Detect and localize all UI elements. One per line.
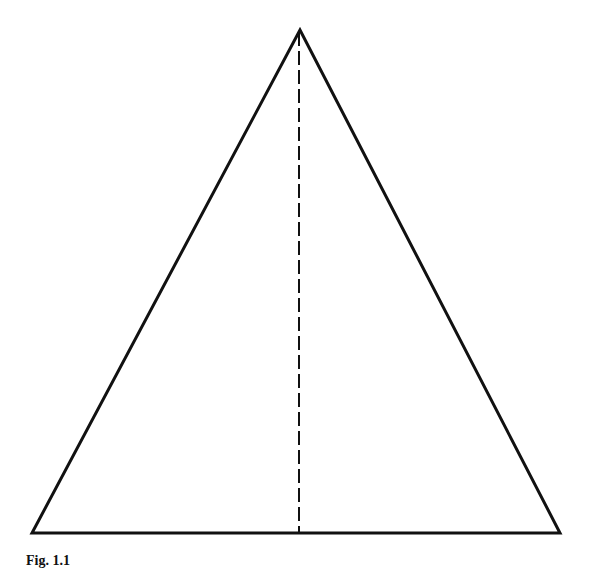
triangle-outline [32,30,560,533]
figure-caption: Fig. 1.1 [26,553,70,569]
